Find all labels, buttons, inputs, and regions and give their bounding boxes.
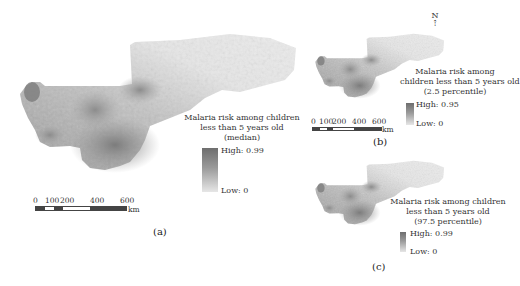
scale-tick: 400: [90, 196, 104, 205]
caption-a: (a): [153, 226, 167, 237]
scale-bar-graphic: [312, 127, 382, 131]
panel-a: Malaria risk among children less than 5 …: [0, 0, 300, 286]
scale-tick: 200: [332, 117, 346, 126]
scale-tick: 200: [60, 196, 74, 205]
scale-tick: 0: [33, 196, 38, 205]
panel-c: Malaria risk among children less than 5 …: [300, 145, 507, 286]
legend-title-a: Malaria risk among children less than 5 …: [182, 113, 302, 143]
low-label-b: Low: 0: [416, 119, 443, 128]
scale-tick: 0: [311, 117, 316, 126]
legend-title-line: (2.5 percentile): [400, 87, 510, 97]
caption-c: (c): [372, 261, 385, 272]
legend-title-line: Malaria risk among: [400, 67, 510, 77]
color-ramp-a: [202, 148, 218, 192]
legend-title-line: children less than 5 years old: [400, 77, 510, 87]
scale-tick: 400: [352, 117, 366, 126]
scale-bar-graphic: [35, 206, 127, 211]
legend-title-b: Malaria risk among children less than 5 …: [400, 67, 510, 97]
legend-title-line: Malaria risk among children: [182, 113, 302, 123]
north-arrow-icon: ⇡: [430, 20, 440, 28]
scale-bar-b: 0 100 200 400 600 km: [311, 117, 401, 135]
legend-title-line: Malaria risk among children: [388, 197, 508, 207]
high-label-a: High: 0.99: [221, 146, 264, 155]
high-label-c: High: 0.99: [410, 229, 453, 238]
scale-tick: 100: [45, 196, 59, 205]
scale-bar-a: 0 100 200 400 600 km: [33, 196, 143, 216]
color-ramp-b: [406, 103, 414, 125]
color-ramp-c: [400, 232, 406, 252]
scale-unit: km: [128, 205, 140, 214]
legend-title-line: less than 5 years old: [388, 207, 508, 217]
low-label-c: Low: 0: [410, 247, 437, 256]
legend-title-line: (97.5 percentile): [388, 217, 508, 227]
high-label-b: High: 0.95: [416, 100, 459, 109]
legend-title-line: (median): [182, 133, 302, 143]
panel-b: N ⇡ Malaria risk among children less tha…: [300, 0, 507, 145]
legend-title-c: Malaria risk among children less than 5 …: [388, 197, 508, 227]
legend-title-line: less than 5 years old: [182, 123, 302, 133]
scale-tick: 600: [120, 196, 134, 205]
scale-unit: km: [382, 125, 394, 134]
north-arrow: N ⇡: [430, 12, 440, 28]
low-label-a: Low: 0: [221, 186, 248, 195]
